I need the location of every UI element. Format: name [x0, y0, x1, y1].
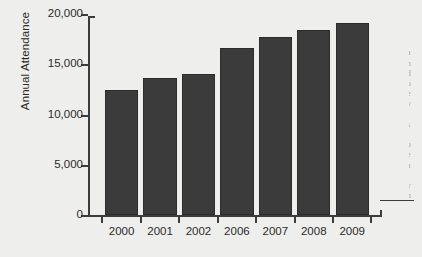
cutoff-text-line: t — [409, 130, 420, 140]
cutoff-text-line: t — [409, 171, 420, 181]
y-axis-tick-label: 15,000 — [48, 57, 83, 69]
x-axis-tick-label: 2006 — [217, 225, 257, 237]
cutoff-text-line: v — [409, 99, 420, 109]
cutoff-text-line: e — [409, 150, 420, 160]
bar — [143, 78, 176, 215]
bar — [336, 23, 369, 215]
cutoff-text-line: e — [409, 89, 420, 99]
x-axis-tick-mark — [101, 217, 103, 223]
cutoff-text-line: y — [409, 181, 420, 191]
y-axis-tick-label: 0 — [77, 208, 83, 220]
cutoff-text-line: n — [409, 191, 420, 200]
cutoff-text-line: a — [409, 161, 420, 171]
bar — [220, 48, 253, 215]
bar — [259, 37, 292, 215]
x-axis-tick-mark — [217, 217, 219, 223]
x-axis-tick-label: 2008 — [294, 225, 334, 237]
plot-area: 05,00010,00015,00020,000 — [88, 16, 382, 217]
bar — [297, 30, 330, 215]
y-axis-title: Annual Attendance — [19, 0, 37, 141]
y-axis-tick-label: 5,000 — [54, 158, 83, 170]
cutoff-text-line: s — [409, 120, 420, 130]
x-axis-tick-mark — [294, 217, 296, 223]
y-axis-tick-label: 10,000 — [48, 108, 83, 120]
page-rule — [380, 200, 414, 201]
x-axis-tick-label: 2001 — [140, 225, 180, 237]
y-axis-line — [88, 16, 90, 217]
cutoff-text-line: t — [409, 38, 420, 48]
x-axis-tick-mark — [140, 217, 142, 223]
x-axis-right-cap — [380, 210, 382, 217]
x-axis-tick-mark — [332, 217, 334, 223]
x-axis-tick-label: 2000 — [102, 225, 142, 237]
cutoff-text-line: o — [409, 79, 420, 89]
cutoff-text-line: o — [409, 140, 420, 150]
x-axis-tick-mark — [255, 217, 257, 223]
cutoff-text-line: n — [409, 59, 420, 69]
cutoff-text-line: i — [409, 110, 420, 120]
bar — [182, 74, 215, 215]
x-axis-tick-label: 2002 — [178, 225, 218, 237]
cutoff-text-line: d — [409, 69, 420, 79]
bar — [105, 90, 138, 215]
cutoff-body-text-sliver: itandoevistoeatyn — [409, 28, 422, 200]
y-axis-tick-label: 20,000 — [48, 7, 83, 19]
cutoff-text-line: a — [409, 48, 420, 58]
x-axis-tick-label: 2009 — [332, 225, 372, 237]
y-axis-top-cap — [88, 16, 95, 18]
attendance-bar-chart: Annual Attendance 05,00010,00015,00020,0… — [0, 0, 422, 257]
x-axis-tick-label: 2007 — [255, 225, 295, 237]
x-axis-tick-mark — [370, 217, 372, 223]
cutoff-text-line: i — [409, 28, 420, 38]
x-axis-tick-mark — [178, 217, 180, 223]
x-axis-line — [88, 215, 382, 217]
